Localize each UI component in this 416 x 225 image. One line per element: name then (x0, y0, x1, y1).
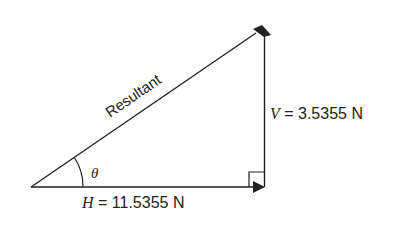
horizontal-value: 11.5355 N (112, 194, 185, 211)
resultant-label: Resultant (102, 70, 165, 120)
vertical-label: V = 3.5355 N (270, 105, 363, 122)
angle-label: θ (91, 165, 99, 181)
angle-arc (74, 157, 83, 187)
vector-triangle-diagram: θ Resultant V = 3.5355 N H = 11.5355 N (0, 0, 416, 225)
horizontal-equals: = (94, 194, 112, 211)
horizontal-label: H = 11.5355 N (81, 194, 184, 211)
resultant-line (31, 33, 256, 187)
resultant-arrowhead-icon (253, 25, 271, 37)
vertical-equals: = (280, 105, 298, 122)
vertical-value: 3.5355 N (298, 105, 363, 122)
horizontal-arrowhead-icon (253, 181, 265, 193)
